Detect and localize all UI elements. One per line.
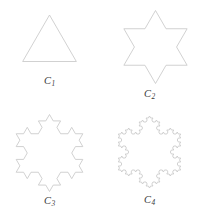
figure-panel-c4: C4 <box>100 105 199 217</box>
figure-label-c2: C2 <box>100 89 199 100</box>
figure-label-c3-subscript: 3 <box>51 199 55 208</box>
figure-label-c4-subscript: 4 <box>151 198 155 207</box>
figure-panel-c3: C3 <box>0 105 99 217</box>
koch-curve-c1 <box>0 0 99 104</box>
figure-panel-c2: C2 <box>100 0 199 104</box>
koch-path-c1 <box>23 15 77 62</box>
figure-label-c1-subscript: 1 <box>51 79 55 88</box>
figure-label-c2-subscript: 2 <box>151 92 155 101</box>
koch-snowflake-figure: C1 C2 C3 C4 <box>0 0 199 217</box>
figure-label-c3: C3 <box>0 196 99 207</box>
koch-path-c2 <box>124 11 187 84</box>
koch-path-c3 <box>16 115 83 192</box>
figure-label-c4: C4 <box>100 195 199 206</box>
figure-panel-c1: C1 <box>0 0 99 104</box>
figure-label-c1: C1 <box>0 76 99 87</box>
koch-path-c4 <box>118 116 180 188</box>
